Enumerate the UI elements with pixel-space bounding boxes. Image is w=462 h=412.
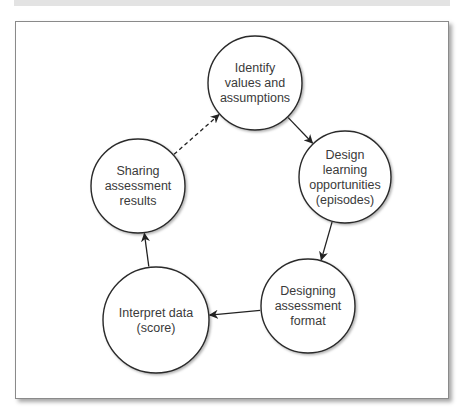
node-label: values and bbox=[225, 76, 286, 90]
node-label: learning bbox=[323, 163, 368, 177]
node-label: assessment bbox=[105, 179, 172, 193]
node-label: Designing bbox=[280, 284, 336, 298]
node-interpret: Interpret data(score) bbox=[103, 267, 209, 373]
node-label: Sharing bbox=[116, 164, 159, 178]
nodes: Identifyvalues andassumptionsDesignlearn… bbox=[91, 36, 391, 373]
arrow-identify-to-design bbox=[288, 118, 312, 143]
node-label: Interpret data bbox=[119, 306, 193, 320]
node-label: (episodes) bbox=[316, 193, 374, 207]
arrow-design-to-designing bbox=[321, 222, 332, 260]
node-design: Designlearningopportunities(episodes) bbox=[299, 131, 391, 223]
node-designing: Designingassessmentformat bbox=[261, 259, 355, 353]
arrow-designing-to-interpret bbox=[210, 310, 260, 315]
node-label: format bbox=[290, 314, 326, 328]
arrow-sharing-to-identify bbox=[174, 115, 219, 155]
node-label: opportunities bbox=[309, 178, 381, 192]
node-label: results bbox=[120, 194, 157, 208]
node-label: assessment bbox=[275, 299, 342, 313]
cycle-diagram: Identifyvalues andassumptionsDesignlearn… bbox=[0, 0, 462, 412]
node-label: Identify bbox=[235, 61, 276, 75]
node-label: assumptions bbox=[220, 91, 290, 105]
node-identify: Identifyvalues andassumptions bbox=[208, 36, 302, 130]
node-label: (score) bbox=[137, 321, 176, 335]
node-label: Design bbox=[326, 148, 365, 162]
arrow-interpret-to-sharing bbox=[144, 234, 148, 267]
node-sharing: Sharingassessmentresults bbox=[91, 139, 185, 233]
